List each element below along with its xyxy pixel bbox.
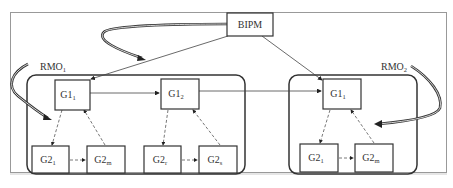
solid-edges (89, 36, 322, 93)
node-g1-1-right: G11 (323, 79, 361, 109)
node-bipm: BIPM (227, 13, 273, 36)
node-g2-m-right: G2m (355, 144, 393, 172)
node-g2-m-left: G2m (87, 146, 125, 173)
edge-bipm-g1-1-left (91, 36, 228, 79)
node-g1-2: G12 (161, 79, 199, 109)
node-g2-s: G2s (199, 146, 237, 173)
node-g1-1-left: G11 (55, 80, 90, 110)
node-g2-1-left: G21 (32, 146, 69, 173)
bipm-label: BIPM (238, 19, 263, 30)
edge-bipm-g1-1-right (262, 36, 322, 80)
rmo2-label: RMO2 (381, 61, 407, 73)
diagram-canvas: BIPM RMO1 RMO2 G11 G12 G11 G21 G2m G2r G… (0, 0, 453, 188)
rmo1-influence-arrow (12, 64, 52, 120)
rmo1-label: RMO1 (40, 61, 66, 73)
node-g2-1-right: G21 (300, 144, 338, 172)
node-g2-r: G2r (144, 146, 181, 173)
